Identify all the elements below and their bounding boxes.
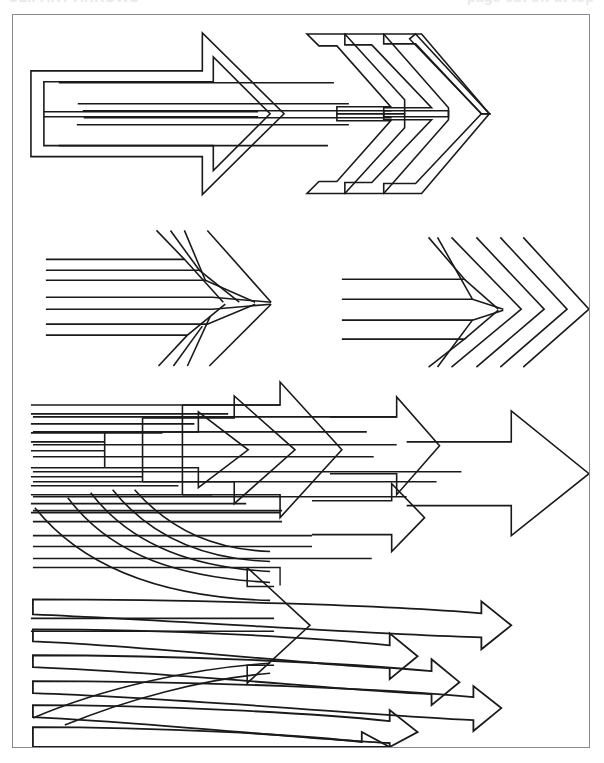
figure-region-arrow-4 [302,211,583,379]
figure-region-arrow-1 [21,23,302,201]
figure-region-arrow-3 [21,211,302,379]
cut-off-header-strip: CLIPART ARROWS page cut off at top [0,0,604,13]
figure-region-arrow-2 [302,23,583,201]
artwork-frame [12,14,590,748]
figure-region-arrow-8 [302,559,583,745]
figure-region-arrow-6 [302,379,583,559]
clipart-page: CLIPART ARROWS page cut off at top [0,0,604,763]
header-right-text: page cut off at top [467,0,594,5]
figure-region-arrow-5 [21,379,302,559]
figure-region-arrow-7 [21,559,302,745]
header-left-text: CLIPART ARROWS [8,0,139,5]
